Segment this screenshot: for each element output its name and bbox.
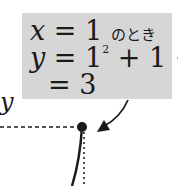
arrowhead-icon — [97, 120, 110, 132]
point-dot — [77, 122, 87, 132]
curve — [72, 127, 82, 186]
pointer-arrow-line — [104, 100, 128, 126]
graph-overlay — [0, 0, 178, 186]
